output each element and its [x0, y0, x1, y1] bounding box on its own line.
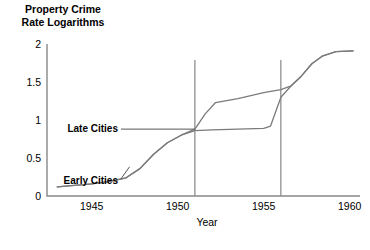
y-axis-tick-label: 0 — [35, 190, 41, 202]
y-axis-tick-labels: 00.511.52 — [26, 38, 41, 202]
x-axis-tick-labels: 1945195019551960 — [80, 200, 361, 212]
y-axis-tick-label: 2 — [35, 38, 41, 50]
axis-lines — [47, 44, 360, 196]
x-axis-tick-label: 1950 — [166, 200, 190, 212]
chart-canvas: Property Crime Rate Logarithms 00.511.52… — [0, 0, 370, 250]
x-axis-tick-label: 1945 — [80, 200, 104, 212]
y-axis-tick-label: 1 — [35, 114, 41, 126]
series-line-late-cities — [57, 51, 353, 187]
series-label-late-cities: Late Cities — [67, 123, 118, 134]
series-line-early-cities — [57, 51, 353, 187]
chart-title-line-2: Rate Logarithms — [22, 16, 105, 28]
x-axis-tick-label: 1955 — [252, 200, 276, 212]
series-lines — [57, 51, 353, 187]
x-axis-title: Year — [196, 216, 218, 228]
series-label-early-cities: Early Cities — [64, 175, 119, 186]
property-crime-chart: Property Crime Rate Logarithms 00.511.52… — [0, 0, 370, 250]
x-axis-tick-label: 1960 — [338, 200, 362, 212]
reference-lines — [195, 60, 281, 196]
chart-title-group: Property Crime Rate Logarithms — [22, 3, 105, 28]
chart-title-line-1: Property Crime — [25, 3, 101, 15]
y-axis-tick-label: 0.5 — [26, 152, 41, 164]
y-axis-tick-label: 1.5 — [26, 76, 41, 88]
